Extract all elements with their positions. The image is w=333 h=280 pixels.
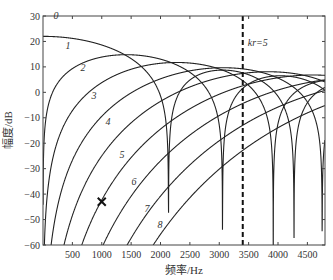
x-tick-label: 3000 xyxy=(209,249,229,260)
y-tick-label: −30 xyxy=(24,163,40,174)
y-axis-label: 幅度/dB xyxy=(1,111,14,149)
curve-label-6: 6 xyxy=(132,176,137,187)
curve-label-0: 0 xyxy=(54,10,59,21)
x-tick-label: 4000 xyxy=(268,249,288,260)
curve-label-1: 1 xyxy=(66,40,71,51)
curve-label-4: 4 xyxy=(106,116,111,127)
y-tick-label: −10 xyxy=(24,112,40,123)
x-tick-label: 1000 xyxy=(92,249,112,260)
modal-response-chart: kr=5 50010001500200025003000350040004500… xyxy=(0,0,333,280)
x-tick-label: 2000 xyxy=(151,249,171,260)
x-tick-label: 4500 xyxy=(297,249,317,260)
y-tick-label: 0 xyxy=(35,87,40,98)
curve-order-2 xyxy=(43,62,325,257)
y-tick-label: −60 xyxy=(24,240,40,251)
x-tick-label: 3500 xyxy=(239,249,259,260)
x-tick-label: 1500 xyxy=(121,249,141,260)
y-tick-label: 30 xyxy=(30,11,40,22)
x-tick-label: 500 xyxy=(65,249,80,260)
curve-label-7: 7 xyxy=(145,203,151,214)
y-tick-label: −40 xyxy=(24,189,40,200)
curve-label-2: 2 xyxy=(81,62,86,73)
chart-container: kr=5 50010001500200025003000350040004500… xyxy=(0,0,333,280)
x-axis-label: 频率/Hz xyxy=(165,263,203,276)
curve-order-4 xyxy=(43,72,325,258)
plot-frame xyxy=(43,16,325,245)
curve-order-6 xyxy=(43,80,325,258)
y-tick-label: −20 xyxy=(24,138,40,149)
y-tick-label: 10 xyxy=(30,61,40,72)
x-tick-label: 2500 xyxy=(180,249,200,260)
curve-order-7 xyxy=(43,90,325,257)
curve-label-3: 3 xyxy=(91,90,97,101)
curve-label-8: 8 xyxy=(158,219,163,230)
y-tick-label: 20 xyxy=(30,36,40,47)
curve-order-5 xyxy=(43,75,325,258)
kr5-label: kr=5 xyxy=(248,37,268,48)
curve-order-3 xyxy=(43,68,325,258)
y-tick-label: −50 xyxy=(24,214,40,225)
curve-label-5: 5 xyxy=(120,149,125,160)
